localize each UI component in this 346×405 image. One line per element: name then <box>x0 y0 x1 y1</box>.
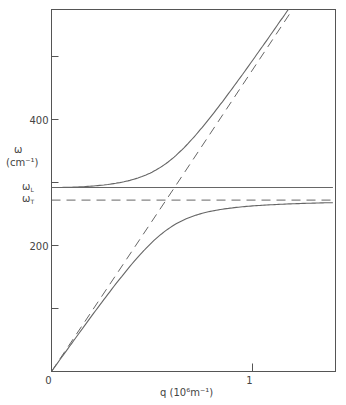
y-tick-label: 200 <box>29 241 48 252</box>
x-ticks: 01 <box>45 364 252 386</box>
upper-branch-curve <box>52 0 333 188</box>
omega-l-label: ωL <box>22 181 34 193</box>
y-axis-label-unit: (cm⁻¹) <box>6 157 38 168</box>
polariton-dispersion-chart: 200400 01 ω (cm⁻¹) q (10⁶m⁻¹) ωL ωT <box>0 0 346 405</box>
lower-branch-curve <box>52 203 333 372</box>
plot-frame <box>52 10 336 372</box>
x-tick-label: 1 <box>246 375 252 386</box>
photon-line <box>52 9 293 371</box>
omega-t-label: ωT <box>22 193 34 205</box>
y-ticks: 200400 <box>29 57 58 309</box>
y-axis-label-symbol: ω <box>14 144 22 155</box>
curves <box>52 0 333 372</box>
x-tick-label: 0 <box>45 375 51 386</box>
x-axis-label: q (10⁶m⁻¹) <box>160 387 213 398</box>
y-tick-label: 400 <box>29 115 48 126</box>
